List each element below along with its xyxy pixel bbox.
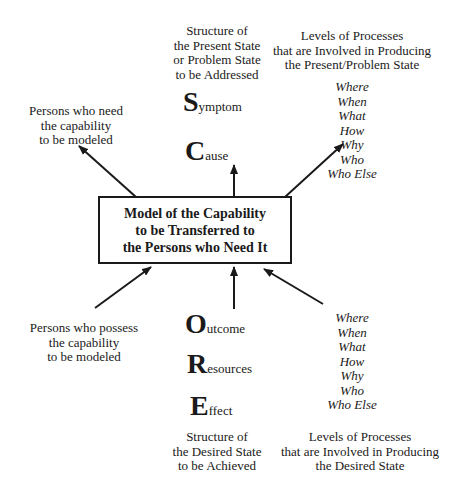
acronym-effect: Effect (190, 392, 232, 420)
list-item: How (312, 124, 392, 139)
text-line: Structure of (162, 430, 272, 445)
acronym-rest: utcome (207, 321, 245, 336)
acronym-cause: Cause (185, 137, 228, 165)
acronym-initial: C (185, 135, 205, 166)
arrow-from-desired-levels (264, 269, 323, 304)
desired-levels-label: Levels of Processes that are Involved in… (272, 430, 448, 474)
list-item: When (310, 326, 394, 341)
capability-model-box: Model of the Capability to be Transferre… (98, 196, 292, 264)
present-levels-list: Where When What How Why Who Who Else (312, 80, 392, 182)
acronym-rest: ffect (209, 403, 233, 418)
list-item: Why (312, 138, 392, 153)
text-line: Structure of (158, 24, 276, 39)
persons-possess-label: Persons who possess the capability to be… (20, 321, 148, 365)
text-line: the Desired State (162, 445, 272, 460)
list-item: Where (312, 80, 392, 95)
present-structure-label: Structure of the Present State or Proble… (158, 24, 276, 82)
list-item: Who Else (312, 167, 392, 182)
acronym-rest: ymptom (199, 99, 242, 114)
box-line: the Persons who Need It (123, 239, 268, 256)
list-item: Who (312, 153, 392, 168)
acronym-initial: O (185, 308, 207, 339)
text-line: Levels of Processes (272, 430, 448, 445)
acronym-initial: R (187, 348, 207, 379)
acronym-initial: S (183, 86, 199, 117)
list-item: Where (310, 311, 394, 326)
text-line: that are Involved in Producing (272, 445, 448, 460)
desired-levels-list: Where When What How Why Who Who Else (310, 311, 394, 413)
text-line: the capability (18, 119, 134, 134)
text-line: Levels of Processes (262, 29, 442, 44)
acronym-symptom: Symptom (183, 88, 242, 116)
list-item: Who Else (310, 398, 394, 413)
text-line: or Problem State (158, 53, 276, 68)
arrow-to-persons-who-need (79, 146, 136, 197)
persons-need-label: Persons who need the capability to be mo… (18, 104, 134, 148)
text-line: Persons who need (18, 104, 134, 119)
box-line: to be Transferred to (135, 222, 254, 239)
list-item: When (312, 95, 392, 110)
text-line: to be Addressed (158, 68, 276, 83)
text-line: the Present/Problem State (262, 58, 442, 73)
box-line: Model of the Capability (124, 205, 266, 222)
desired-structure-label: Structure of the Desired State to be Ach… (162, 430, 272, 474)
text-line: to be Achieved (162, 459, 272, 474)
list-item: What (312, 109, 392, 124)
list-item: How (310, 355, 394, 370)
text-line: that are Involved in Producing (262, 44, 442, 59)
text-line: the capability (20, 336, 148, 351)
list-item: Who (310, 384, 394, 399)
text-line: Persons who possess (20, 321, 148, 336)
acronym-resources: Resources (187, 350, 252, 378)
text-line: the Present State (158, 39, 276, 54)
list-item: Why (310, 369, 394, 384)
text-line: to be modeled (18, 133, 134, 148)
text-line: to be modeled (20, 350, 148, 365)
acronym-initial: E (190, 390, 209, 421)
text-line: the Desired State (272, 459, 448, 474)
acronym-rest: ause (205, 148, 228, 163)
present-levels-label: Levels of Processes that are Involved in… (262, 29, 442, 73)
arrow-from-persons-who-possess (95, 267, 151, 308)
list-item: What (310, 340, 394, 355)
acronym-outcome: Outcome (185, 310, 245, 338)
acronym-rest: esources (207, 361, 252, 376)
